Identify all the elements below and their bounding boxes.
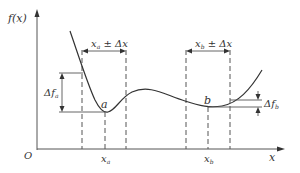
point-b-label: b [204,94,211,107]
delta-fb-label: Δfb [263,98,279,110]
origin-label: O [24,150,32,161]
point-a-label: a [101,98,108,111]
delta-fa-dimension: Δfa [43,73,105,112]
arrow-right-icon [224,49,230,54]
x-axis-label: x [269,151,276,164]
arrow-left-icon [82,49,88,54]
interval-b-dimension: xb ± Δx [186,38,232,54]
arrow-down-icon [256,94,261,100]
interval-a-dimension: xa ± Δx [82,38,128,54]
xb-tick-label: xb [204,153,214,165]
y-axis-arrow-icon [35,9,40,17]
arrow-up-icon [256,107,261,113]
interval-b-label: xb ± Δx [195,38,232,50]
arrow-right-icon [120,49,126,54]
arrow-left-icon [186,49,192,54]
y-axis-label: f(x) [7,12,27,25]
interval-a-label: xa ± Δx [91,38,128,50]
xa-tick-label: xa [101,153,111,165]
arrow-up-icon [60,73,65,79]
arrow-down-icon [60,106,65,112]
axes [35,9,286,152]
local-minima-diagram: f(x) O x xa ± Δx xb ± Δx Δfa [0,0,300,173]
x-axis-arrow-icon [277,147,285,152]
delta-fa-label: Δfa [43,87,59,99]
